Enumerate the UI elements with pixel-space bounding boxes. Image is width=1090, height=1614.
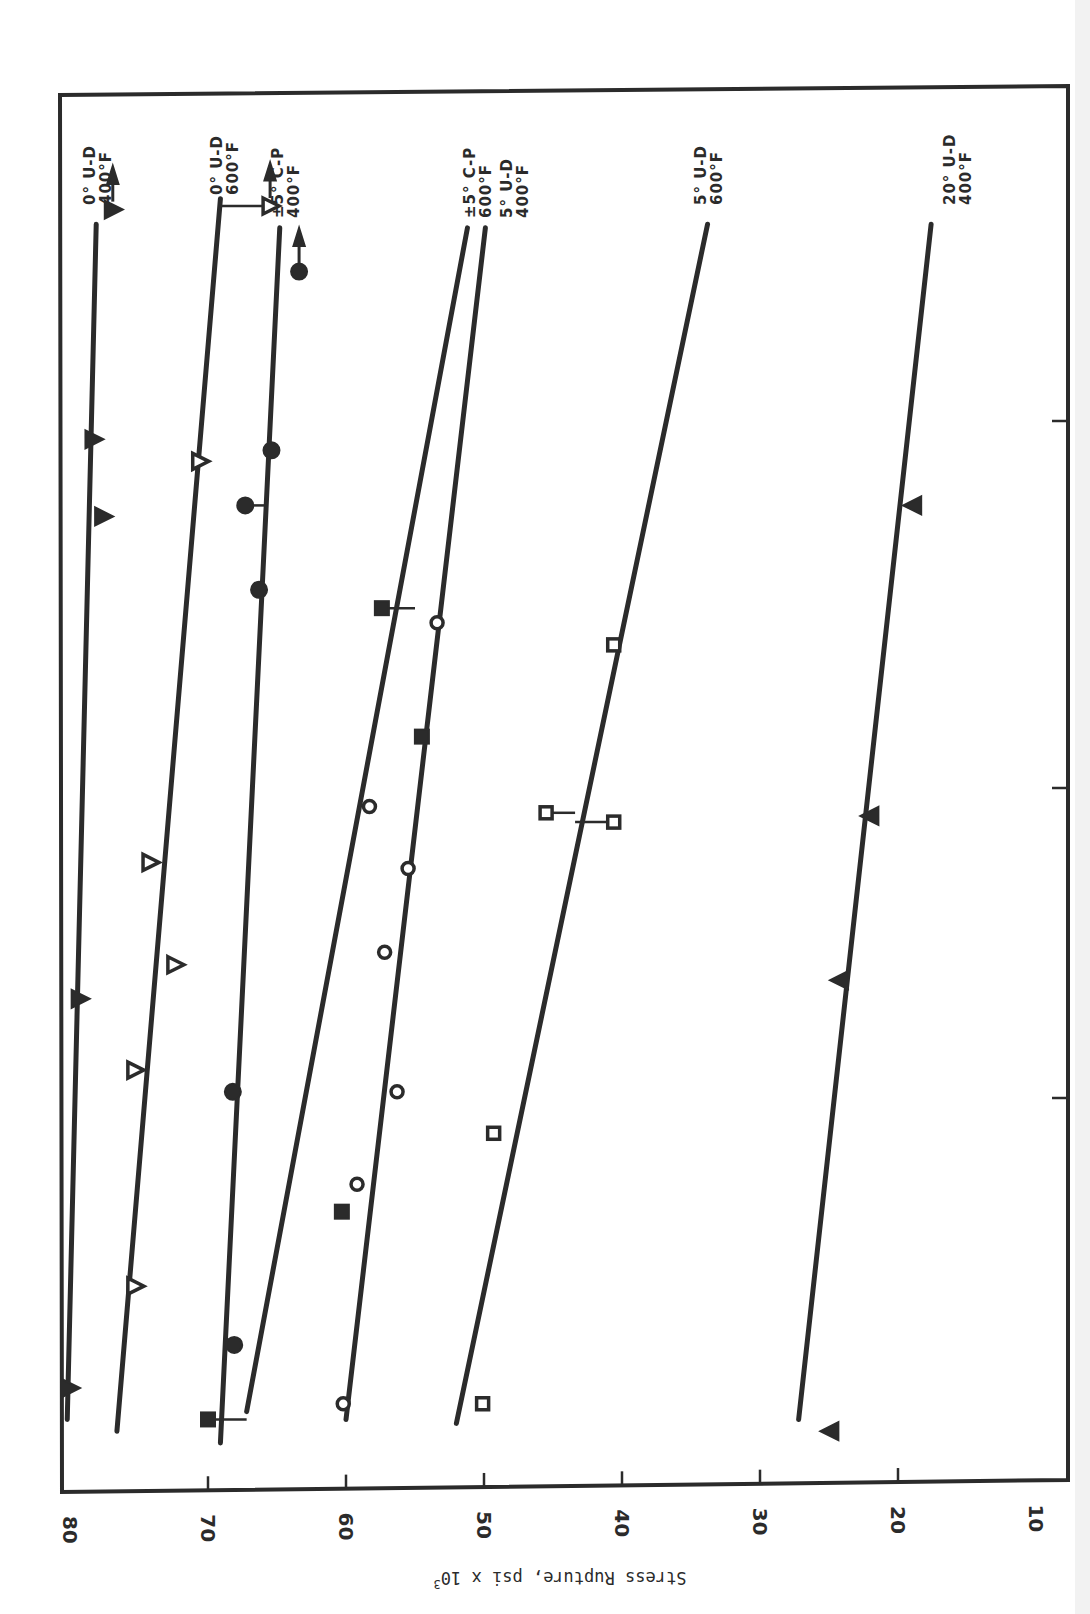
filled-square-marker	[201, 1412, 215, 1426]
series-label-0: 0° U-D400°F	[81, 145, 115, 205]
stress-tick-label: 60	[334, 1513, 358, 1541]
open-circle-marker	[337, 1398, 349, 1410]
filled-circle-marker	[226, 1337, 242, 1353]
filled-triangle-marker	[830, 971, 848, 989]
open-circle-marker	[391, 1086, 403, 1098]
open-circle-marker	[402, 863, 414, 875]
open-triangle-marker	[193, 453, 209, 469]
series-label-5: 5° U-D600°F	[692, 145, 726, 205]
open-square-marker	[608, 816, 620, 828]
series-label-6: 20° U-D400°F	[941, 134, 975, 205]
series-label-1: 0° U-D600°F	[208, 135, 242, 195]
fit-line-2	[220, 228, 279, 1443]
filled-square-marker	[335, 1205, 349, 1219]
svg-text:60: 60	[334, 1513, 358, 1541]
arrow-up-icon	[294, 230, 304, 246]
open-triangle-marker	[128, 1278, 144, 1294]
fit-line-1	[117, 199, 221, 1432]
filled-circle-marker	[225, 1084, 241, 1100]
stress-axis-title: Stress Rupture, psi x 103	[434, 1568, 687, 1591]
open-circle-marker	[351, 1178, 363, 1190]
svg-text:20: 20	[886, 1506, 910, 1534]
page-edge-shadow	[1075, 0, 1090, 1614]
stress-tick-label: 30	[748, 1508, 772, 1536]
series-label-line2: 400°F	[285, 164, 303, 218]
open-square-marker	[488, 1127, 500, 1139]
axis-title-exponent: 3	[434, 1577, 441, 1591]
series-label-line2: 400°F	[957, 151, 975, 205]
series-label-line2: 600°F	[708, 151, 726, 205]
series-label-4: 5° U-D400°F	[498, 158, 532, 218]
filled-triangle-marker	[95, 507, 113, 525]
fit-line-4	[346, 228, 485, 1420]
filled-triangle-marker	[903, 496, 921, 514]
time-axis-ticks	[1052, 421, 1068, 1098]
stress-tick-label: 70	[196, 1514, 220, 1542]
fit-line-0	[67, 224, 96, 1419]
open-square-marker	[540, 807, 552, 819]
svg-text:30: 30	[748, 1508, 772, 1536]
fit-lines	[67, 199, 931, 1443]
stress-tick-label: 10	[1024, 1504, 1048, 1532]
series-label-line2: 600°F	[477, 164, 495, 218]
stress-tick-label: 50	[472, 1511, 496, 1539]
series-label-2: ±5° C-P400°F	[269, 147, 303, 218]
stress-tick-label: 40	[610, 1509, 634, 1537]
svg-text:80: 80	[58, 1516, 82, 1544]
open-triangle-marker	[168, 957, 184, 973]
svg-text:50: 50	[472, 1511, 496, 1539]
series-label-line2: 400°F	[514, 164, 532, 218]
svg-text:10: 10	[1024, 1504, 1048, 1532]
open-triangle-marker	[128, 1062, 144, 1078]
filled-circle-marker	[291, 264, 307, 280]
filled-triangle-marker	[820, 1422, 838, 1440]
series-label-line2: 400°F	[97, 151, 115, 205]
open-circle-marker	[431, 617, 443, 629]
series-labels: 0° U-D400°F0° U-D600°F±5° C-P400°F±5° C-…	[81, 134, 975, 218]
series-label-3: ±5° C-P600°F	[461, 147, 495, 218]
open-circle-marker	[379, 946, 391, 958]
filled-circle-marker	[251, 582, 267, 598]
filled-circle-marker	[263, 442, 279, 458]
open-square-marker	[477, 1398, 489, 1410]
open-square-marker	[608, 639, 620, 651]
fit-line-3	[247, 228, 468, 1412]
filled-triangle-marker	[72, 990, 90, 1008]
filled-square-marker	[375, 601, 389, 615]
filled-square-marker	[415, 730, 429, 744]
series-label-line2: 600°F	[224, 141, 242, 195]
fit-line-5	[456, 224, 707, 1423]
axis-title-main: Stress Rupture, psi x 10	[441, 1568, 687, 1588]
stress-tick-label: 80	[58, 1516, 82, 1544]
stress-tick-label: 20	[886, 1506, 910, 1534]
open-triangle-marker	[143, 854, 159, 870]
open-circle-marker	[363, 801, 375, 813]
stress-rupture-chart: 8070605040302010 0° U-D400°F0° U-D600°F±…	[0, 0, 1090, 1614]
svg-text:Stress Rupture, psi x 103: Stress Rupture, psi x 103	[434, 1568, 687, 1591]
fit-line-6	[799, 224, 931, 1419]
svg-text:40: 40	[610, 1509, 634, 1537]
filled-circle-marker	[237, 497, 253, 513]
filled-triangle-marker	[85, 430, 103, 448]
svg-text:70: 70	[196, 1514, 220, 1542]
filled-triangle-marker	[62, 1379, 80, 1397]
stress-axis-ticks: 8070605040302010	[58, 1468, 1048, 1544]
